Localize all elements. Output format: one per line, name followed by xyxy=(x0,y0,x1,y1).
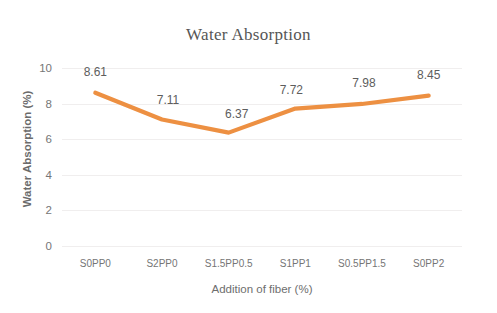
x-tick-label-S0.5PP1.5: S0.5PP1.5 xyxy=(338,258,386,269)
y-tick-label-10: 10 xyxy=(26,62,52,74)
x-axis-tick-labels: S0PP0S2PP0S1.5PP0.5S1PP1S0.5PP1.5S0PP2 xyxy=(62,258,462,274)
data-label-S1PP1: 7.72 xyxy=(280,83,303,97)
series-line-water-absorption xyxy=(62,68,462,246)
x-tick-label-S1PP1: S1PP1 xyxy=(280,258,311,269)
y-tick-label-0: 0 xyxy=(26,240,52,252)
y-tick-label-8: 8 xyxy=(26,98,52,110)
water-absorption-chart: Water Absorption Water Absorption (%) 02… xyxy=(0,0,497,313)
x-tick-label-S0PP2: S0PP2 xyxy=(413,258,444,269)
plot-area xyxy=(62,68,462,246)
x-tick-label-S0PP0: S0PP0 xyxy=(80,258,111,269)
x-axis-title: Addition of fiber (%) xyxy=(62,283,462,295)
data-label-S0PP2: 8.45 xyxy=(417,68,440,82)
series-polyline xyxy=(95,93,428,133)
data-label-S1.5PP0.5: 6.37 xyxy=(225,107,248,121)
x-tick-label-S2PP0: S2PP0 xyxy=(146,258,177,269)
data-label-S2PP0: 7.11 xyxy=(157,93,179,107)
y-axis-tick-labels: 0246810 xyxy=(26,68,52,246)
y-tick-label-6: 6 xyxy=(26,133,52,145)
data-label-S0PP0: 8.61 xyxy=(84,65,107,79)
y-tick-label-4: 4 xyxy=(26,169,52,181)
chart-title: Water Absorption xyxy=(0,25,497,45)
gridline-0 xyxy=(62,246,462,247)
x-tick-label-S1.5PP0.5: S1.5PP0.5 xyxy=(205,258,253,269)
y-tick-label-2: 2 xyxy=(26,204,52,216)
data-label-S0.5PP1.5: 7.98 xyxy=(352,76,375,90)
